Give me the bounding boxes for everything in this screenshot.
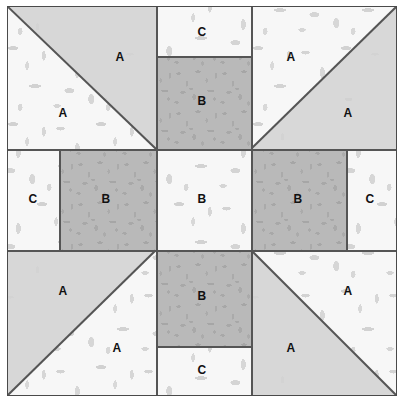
patch-top-left-hst [7,6,156,149]
patch-top-center-c [156,6,251,56]
patch-middle-left-b [59,149,156,250]
patch-top-center-b [156,56,251,149]
patch-bottom-right-hst [251,250,397,396]
quilt-block-diagram: A A C B A A C B B B C A A B C A A [0,0,405,403]
patch-middle-right-c [346,149,397,250]
patch-bottom-center-b [156,250,251,346]
patch-bottom-center-c [156,346,251,396]
patch-top-right-hst [251,6,397,149]
block-frame [7,6,397,396]
patch-middle-right-b [251,149,346,250]
patch-bottom-left-hst [7,250,156,396]
patch-center-b [156,149,251,250]
patch-middle-left-c [7,149,59,250]
